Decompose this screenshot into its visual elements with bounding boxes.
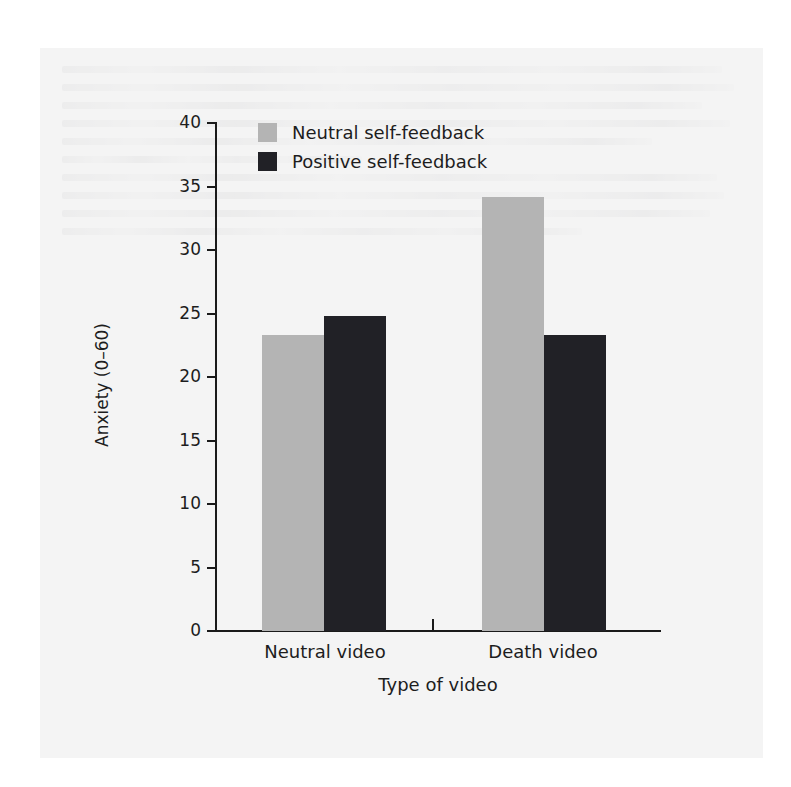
bar-neutral-video-positive-self-feedback — [324, 316, 386, 631]
bar-group-container — [0, 0, 791, 631]
legend-item-label: Neutral self-feedback — [292, 124, 484, 142]
bar-chart: 0510152025303540 Neutral video Death vid… — [0, 0, 791, 787]
legend-swatch-icon — [258, 123, 277, 142]
bar-neutral-video-neutral-self-feedback — [262, 335, 324, 631]
legend-item-neutral-self-feedback: Neutral self-feedback — [258, 118, 487, 147]
x-axis-group-label-neutral-video: Neutral video — [250, 641, 400, 663]
chart-legend: Neutral self-feedback Positive self-feed… — [258, 118, 487, 176]
legend-item-label: Positive self-feedback — [292, 153, 487, 171]
legend-item-positive-self-feedback: Positive self-feedback — [258, 147, 487, 176]
y-axis-title: Anxiety (0–60) — [92, 270, 112, 500]
x-axis-title: Type of video — [215, 674, 661, 695]
bar-death-video-neutral-self-feedback — [482, 197, 544, 631]
bar-death-video-positive-self-feedback — [544, 335, 606, 631]
legend-swatch-icon — [258, 152, 277, 171]
x-axis-group-label-death-video: Death video — [468, 641, 618, 663]
